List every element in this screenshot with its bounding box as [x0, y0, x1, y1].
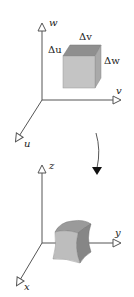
v-axis-label: v — [116, 85, 122, 96]
u-axis-label: u — [24, 138, 30, 149]
curved-region — [53, 220, 91, 263]
curved-front-face — [53, 231, 80, 263]
u-axis — [16, 100, 42, 141]
box-top-face — [63, 45, 101, 56]
delta-w-label: Δw — [104, 55, 120, 66]
delta-v-label: Δv — [79, 31, 92, 42]
x-axis-label: x — [24, 281, 30, 292]
w-axis-label: w — [49, 17, 58, 28]
box-front-face — [63, 56, 95, 88]
rectangular-box: Δv Δu Δw — [48, 31, 120, 88]
z-axis-label: z — [48, 160, 55, 171]
y-axis-label: y — [114, 227, 121, 238]
change-of-variables-diagram: w v u Δv Δu Δw z y x — [0, 0, 134, 297]
curved-down-arrow-icon — [92, 133, 102, 175]
delta-u-label: Δu — [48, 44, 62, 55]
x-axis — [17, 243, 42, 285]
